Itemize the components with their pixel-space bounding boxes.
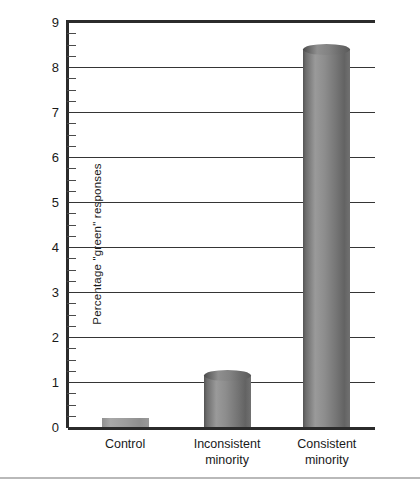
bar [303, 49, 350, 427]
y-tick-label: 6 [52, 150, 59, 165]
y-tick-label: 3 [52, 285, 59, 300]
y-tick-label: 2 [52, 330, 59, 345]
bar-body [204, 375, 251, 427]
y-tick-label: 8 [52, 60, 59, 75]
bar-series [68, 22, 375, 427]
figure: Percentage "green" responses 0123456789 … [0, 0, 420, 488]
y-tick-label: 1 [52, 375, 59, 390]
y-tick-label: 7 [52, 105, 59, 120]
plot-area: 0123456789 [68, 22, 375, 427]
bar-body [102, 418, 149, 427]
bar [102, 418, 149, 427]
x-category-label-line: minority [267, 452, 387, 468]
y-tick-label: 9 [52, 15, 59, 30]
footer-divider-rule [0, 477, 420, 479]
bar [204, 375, 251, 427]
x-category-label: Consistentminority [267, 436, 387, 468]
bar-cylinder-cap [204, 370, 251, 381]
bar-cylinder-cap [303, 44, 350, 55]
cropped-title-remnant [40, 0, 380, 3]
y-tick-label: 4 [52, 240, 59, 255]
axis-bottom-line [68, 427, 375, 430]
x-category-label-line: Consistent [267, 436, 387, 452]
bar-body [303, 49, 350, 427]
y-tick-label: 5 [52, 195, 59, 210]
y-tick-label: 0 [52, 420, 59, 435]
